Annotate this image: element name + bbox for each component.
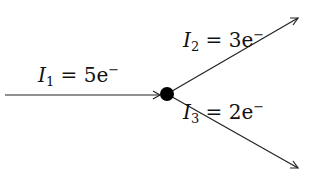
subscript: 3 xyxy=(191,111,199,126)
superscript: − xyxy=(108,62,119,77)
label-i3: I3 = 2e− xyxy=(183,100,264,125)
value: 5e xyxy=(84,63,109,87)
value: 3e xyxy=(229,28,254,52)
equals: = xyxy=(199,28,228,52)
symbol: I xyxy=(183,100,191,124)
subscript: 1 xyxy=(46,74,54,89)
label-i2: I2 = 3e− xyxy=(183,28,264,53)
superscript: − xyxy=(253,27,264,42)
equals: = xyxy=(54,63,83,87)
value: 2e xyxy=(229,100,254,124)
superscript: − xyxy=(253,99,264,114)
junction-diagram xyxy=(0,0,311,179)
junction-node xyxy=(160,87,174,101)
label-i1: I1 = 5e− xyxy=(38,63,119,88)
equals: = xyxy=(199,100,228,124)
subscript: 2 xyxy=(191,39,199,54)
symbol: I xyxy=(183,28,191,52)
symbol: I xyxy=(38,63,46,87)
